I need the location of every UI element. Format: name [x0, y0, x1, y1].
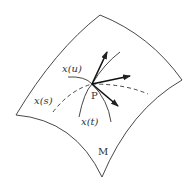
curve-x-s	[53, 84, 148, 112]
tangent-vector-up	[92, 52, 107, 84]
tangent-vector-right	[92, 76, 130, 84]
label-point-p: P	[91, 90, 98, 101]
label-x-t: x(t)	[81, 116, 99, 127]
label-x-u: x(u)	[62, 63, 82, 74]
surface-diagram: x(u) x(s) x(t) P M	[0, 0, 195, 186]
label-surface-m: M	[98, 146, 108, 157]
label-x-s: x(s)	[34, 95, 53, 106]
